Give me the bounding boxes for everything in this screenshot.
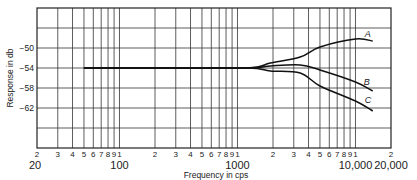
x-minor-tick-label: 7: [335, 150, 340, 159]
x-major-tick-label: 100: [110, 159, 128, 171]
x-minor-tick-label: 3: [56, 150, 61, 159]
x-minor-tick-label: 6: [327, 150, 332, 159]
x-minor-tick-label: 1: [235, 150, 240, 159]
grid: [37, 8, 391, 148]
x-minor-tick-label: 3: [174, 150, 179, 159]
x-minor-tick-label: 2: [389, 150, 394, 159]
y-tick-label: −50: [20, 43, 35, 53]
x-minor-tick-label: 5: [200, 150, 205, 159]
x-major-tick-label: 20,000: [374, 159, 408, 171]
curve-label-c: C: [365, 95, 372, 105]
x-minor-tick-label: 7: [217, 150, 222, 159]
x-minor-tick-label: 4: [188, 150, 193, 159]
curve-label-b: B: [364, 77, 370, 87]
x-minor-tick-label: 9: [112, 150, 117, 159]
axis-labels: 234567891234567891234567891220100100010,…: [5, 43, 408, 180]
x-minor-tick-label: 1: [353, 150, 358, 159]
y-tick-label: −54: [20, 63, 35, 73]
x-minor-tick-label: 4: [70, 150, 75, 159]
frequency-response-chart: ABC 234567891234567891234567891220100100…: [0, 0, 417, 180]
plot-border: [37, 8, 391, 148]
y-tick-label: −62: [20, 103, 35, 113]
y-axis-title: Response in db: [5, 48, 15, 107]
x-axis-title: Frequency in cps: [184, 170, 249, 180]
x-minor-tick-label: 6: [91, 150, 96, 159]
x-major-tick-label: 20: [29, 159, 41, 171]
x-minor-tick-label: 8: [224, 150, 229, 159]
x-minor-tick-label: 5: [318, 150, 323, 159]
x-minor-tick-label: 9: [230, 150, 235, 159]
x-minor-tick-label: 2: [271, 150, 276, 159]
x-minor-tick-label: 8: [342, 150, 347, 159]
x-minor-tick-label: 4: [306, 150, 311, 159]
x-minor-tick-label: 9: [348, 150, 353, 159]
x-minor-tick-label: 2: [35, 150, 40, 159]
x-minor-tick-label: 5: [82, 150, 87, 159]
x-minor-tick-label: 8: [106, 150, 111, 159]
x-minor-tick-label: 3: [292, 150, 297, 159]
x-minor-tick-label: 7: [99, 150, 104, 159]
x-minor-tick-label: 2: [153, 150, 158, 159]
x-major-tick-label: 10,000: [339, 159, 373, 171]
curve-label-a: A: [364, 29, 371, 39]
y-tick-label: −58: [20, 83, 35, 93]
x-minor-tick-label: 6: [209, 150, 214, 159]
x-minor-tick-label: 1: [117, 150, 122, 159]
